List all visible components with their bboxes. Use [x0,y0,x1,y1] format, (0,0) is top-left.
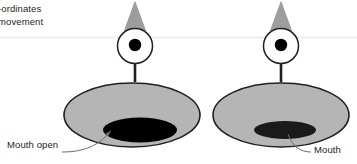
cone-overlap-right [270,1,291,30]
label-mouth-open: Mouth open [7,138,58,151]
diagram-canvas: -ordinates movement Mouth open Mouth [0,0,357,164]
caption-line-coordinates: -ordinates [0,2,41,15]
mouth-ellipse-right [254,121,316,139]
figure-mouth-open [62,1,200,152]
label-mouth-closed: Mouth [314,143,341,156]
pupil-dot-right [275,39,287,51]
mouth-ellipse-left [103,118,177,143]
pupil-dot-left [129,39,141,51]
figure-mouth-closed [213,1,349,152]
cone-overlap-left [124,1,145,30]
caption-line-movement: movement [0,15,43,28]
